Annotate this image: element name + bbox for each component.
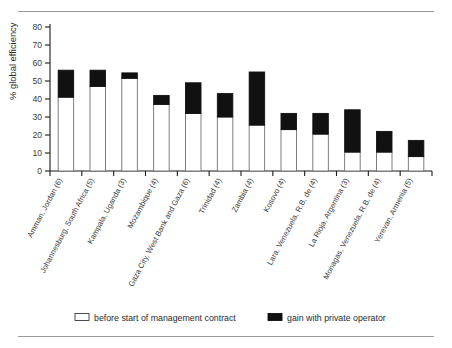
legend-swatch-before: [75, 314, 89, 321]
bar-segment-gain: [58, 70, 74, 97]
bar-segment-before: [58, 97, 74, 171]
y-axis-title: % global efficiency: [7, 22, 18, 100]
bar-segment-gain: [345, 110, 361, 152]
bar-segment-gain: [408, 140, 424, 156]
bar-segment-gain: [217, 94, 233, 117]
legend-label-gain: gain with private operator: [287, 313, 386, 323]
y-tick-label: 0: [37, 166, 42, 176]
bar-stack: [58, 70, 74, 171]
x-axis-labels: Amman, Jordan (6)Johannesburg, South Afr…: [25, 176, 414, 288]
x-axis-category-label: Trinidad (4): [197, 176, 223, 215]
bar-segment-gain: [90, 70, 106, 86]
y-tick-label: 40: [32, 94, 42, 104]
bar-segment-before: [154, 104, 170, 171]
legend-swatch-gain: [268, 314, 282, 321]
bar-stack: [186, 83, 202, 171]
bar-stack: [90, 70, 106, 171]
y-tick-label: 80: [32, 22, 42, 32]
bar-stack: [217, 94, 233, 171]
bar-segment-before: [408, 157, 424, 171]
bar-stack: [122, 73, 138, 171]
bar-segment-before: [281, 130, 297, 171]
y-tick-label: 60: [32, 58, 42, 68]
bar-segment-before: [345, 152, 361, 171]
bar-stack: [313, 113, 329, 171]
bar-segment-before: [313, 134, 329, 171]
x-axis-category-label: Amman, Jordan (6): [25, 176, 64, 239]
bar-segment-before: [90, 86, 106, 171]
bar-stack: [345, 110, 361, 171]
bar-segment-gain: [122, 73, 138, 78]
bar-segment-gain: [249, 72, 265, 125]
x-axis-category-label: Gaza City, West Bank and Gaza (6): [127, 176, 192, 288]
x-axis-category-label: Zambia (4): [230, 176, 256, 213]
bar-segment-before: [377, 152, 393, 171]
x-axis-ticks: [50, 171, 432, 176]
legend-label-before: before start of management contract: [94, 313, 236, 323]
x-axis-category-label: Johannesburg, South Africa (5): [38, 176, 96, 274]
chart-figure: % global efficiency 01020304050607080 Am…: [0, 0, 452, 348]
bar-segment-before: [186, 113, 202, 171]
y-axis-ticks: 01020304050607080: [32, 22, 50, 176]
bar-segment-before: [217, 117, 233, 171]
bar-segment-gain: [313, 113, 329, 134]
bar-stack: [408, 140, 424, 171]
bar-segment-gain: [377, 131, 393, 152]
y-axis-title-text: % global efficiency: [7, 22, 18, 100]
x-axis-category-label: Monagas, Venezuela, R.B. de (4): [321, 176, 382, 281]
bar-group: [58, 70, 424, 171]
bar-segment-gain: [186, 83, 202, 114]
bar-stack: [377, 131, 393, 171]
y-tick-label: 20: [32, 130, 42, 140]
x-axis-category-label: Kosovo (4): [262, 176, 288, 213]
bar-stack: [249, 72, 265, 171]
legend: before start of management contract gain…: [75, 313, 386, 323]
bar-segment-before: [249, 125, 265, 171]
y-tick-label: 50: [32, 76, 42, 86]
y-tick-label: 70: [32, 40, 42, 50]
bar-segment-before: [122, 78, 138, 171]
bar-segment-gain: [281, 113, 297, 129]
bar-stack: [154, 95, 170, 171]
bar-segment-gain: [154, 95, 170, 104]
y-tick-label: 30: [32, 112, 42, 122]
x-axis-category-label: Mozambique (4): [126, 176, 160, 230]
bar-stack: [281, 113, 297, 171]
y-tick-label: 10: [32, 148, 42, 158]
